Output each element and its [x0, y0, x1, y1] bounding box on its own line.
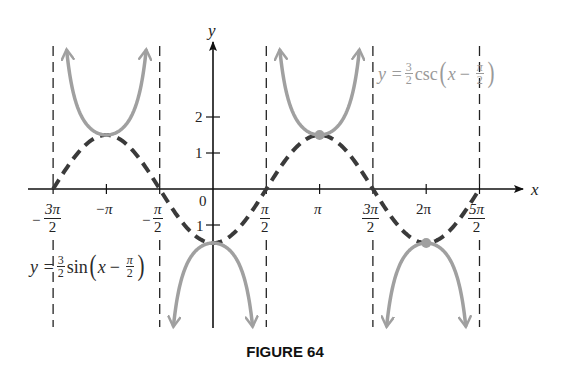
figure-caption: FIGURE 64	[0, 343, 570, 360]
y-axis-label: y	[208, 22, 216, 39]
origin-label: 0	[199, 194, 207, 209]
x-tick-label-pi: π	[314, 202, 322, 217]
sine-equation-label: y = 32 sin ( x − π2 )	[30, 253, 146, 280]
x-tick-label-2pi: 2π	[416, 202, 431, 217]
x-axis-label: x	[531, 181, 539, 198]
x-tick-label-3pi-over-2: 3π 2	[362, 202, 379, 235]
x-tick-minus-sign: −	[142, 212, 150, 229]
x-tick-label-neg-3pi-over-2: 3π 2	[44, 202, 61, 235]
y-tick-label-neg1: 1	[196, 219, 204, 234]
x-tick-minus-sign: −	[32, 212, 40, 229]
cosecant-equation-label: y = 32 csc ( x − π2 )	[378, 60, 496, 87]
x-tick-label-5pi-over-2: 5π 2	[468, 202, 485, 235]
trig-graph	[0, 0, 570, 369]
x-tick-label-neg-pi: −π	[95, 202, 113, 217]
y-tick-label-1: 1	[195, 146, 203, 161]
x-tick-label-pi-over-2: π 2	[260, 202, 270, 235]
y-tick-label-2: 2	[195, 110, 203, 125]
x-tick-label-neg-pi-over-2: π 2	[153, 202, 163, 235]
